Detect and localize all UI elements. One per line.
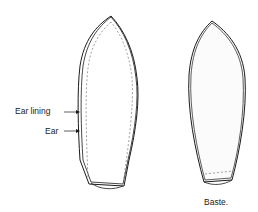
- right-ear-basted: [189, 21, 246, 184]
- left-ear-assembly: [64, 16, 138, 189]
- label-ear-lining: Ear lining: [15, 107, 50, 116]
- label-baste: Baste.: [204, 198, 228, 207]
- label-ear: Ear: [45, 127, 58, 136]
